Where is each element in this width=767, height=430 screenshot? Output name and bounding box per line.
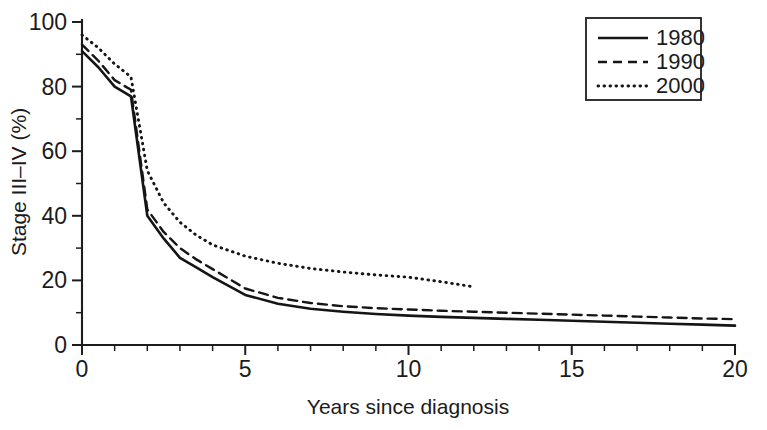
y-tick-label: 0: [54, 332, 67, 358]
y-tick-label: 80: [41, 74, 67, 100]
y-tick-label: 40: [41, 203, 67, 229]
legend-label-1980: 1980: [656, 25, 705, 50]
y-axis-tick-labels: 020406080100: [29, 9, 67, 358]
x-tick-label: 0: [76, 356, 89, 382]
legend-label-1990: 1990: [656, 49, 705, 74]
x-axis-tick-labels: 05101520: [76, 356, 748, 382]
x-axis-title: Years since diagnosis: [307, 395, 509, 418]
x-tick-label: 20: [722, 356, 748, 382]
x-tick-label: 10: [396, 356, 422, 382]
legend-label-2000: 2000: [656, 73, 705, 98]
y-axis-ticks: [72, 22, 82, 345]
chart-figure: 020406080100 05101520 Stage III–IV (%) Y…: [0, 0, 767, 430]
chart-legend: 198019902000: [586, 18, 705, 100]
y-tick-label: 100: [29, 9, 67, 35]
y-tick-label: 20: [41, 267, 67, 293]
x-tick-label: 5: [239, 356, 252, 382]
y-axis-title: Stage III–IV (%): [7, 108, 30, 256]
x-axis-ticks: [82, 345, 735, 355]
y-tick-label: 60: [41, 138, 67, 164]
survival-curve-chart: 020406080100 05101520 Stage III–IV (%) Y…: [0, 0, 767, 430]
x-tick-label: 15: [559, 356, 585, 382]
